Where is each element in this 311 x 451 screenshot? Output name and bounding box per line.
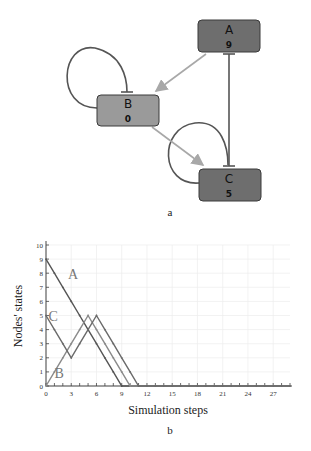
x-tick-label: 12 bbox=[143, 390, 151, 398]
y-tick-label: 1 bbox=[40, 368, 44, 376]
node-b-value: 0 bbox=[125, 114, 131, 124]
chart-annotations: ACB bbox=[49, 267, 79, 381]
series-line-b bbox=[46, 316, 290, 387]
node-a: A 9 bbox=[198, 20, 260, 52]
y-tick-label: 8 bbox=[40, 270, 44, 278]
series-line-c bbox=[46, 316, 290, 387]
y-tick-label: 0 bbox=[40, 383, 44, 391]
edge-a-b-activation bbox=[156, 54, 206, 91]
x-tick-label: 18 bbox=[194, 390, 202, 398]
y-axis-label: Nodes' states bbox=[11, 284, 25, 347]
chart-grid bbox=[46, 245, 290, 386]
y-tick-label: 9 bbox=[40, 256, 44, 264]
network-diagram: A 9 B 0 C 5 a bbox=[67, 20, 261, 218]
chart-axes: 0123456789100369121518212427 bbox=[36, 241, 292, 398]
series-annotation-b: B bbox=[54, 366, 63, 381]
y-tick-label: 2 bbox=[40, 354, 44, 362]
node-b-label: B bbox=[124, 97, 132, 111]
node-b: B 0 bbox=[97, 95, 159, 126]
x-tick-label: 0 bbox=[44, 390, 48, 398]
node-c-label: C bbox=[225, 172, 233, 186]
chart-series bbox=[45, 258, 291, 387]
edge-b-c-activation bbox=[152, 127, 203, 165]
figure: A 9 B 0 C 5 a 01234567891003691215182124… bbox=[0, 0, 311, 451]
x-axis-label: Simulation steps bbox=[128, 403, 208, 417]
y-tick-label: 6 bbox=[40, 298, 44, 306]
series-annotation-a: A bbox=[68, 267, 79, 282]
x-tick-label: 27 bbox=[270, 390, 278, 398]
node-a-value: 9 bbox=[226, 40, 232, 50]
y-tick-label: 7 bbox=[40, 284, 44, 292]
x-tick-label: 9 bbox=[120, 390, 124, 398]
x-tick-label: 3 bbox=[69, 390, 73, 398]
y-tick-label: 4 bbox=[40, 326, 44, 334]
y-tick-label: 5 bbox=[40, 312, 44, 320]
caption-b: b bbox=[167, 424, 173, 436]
x-tick-label: 21 bbox=[219, 390, 227, 398]
y-tick-label: 3 bbox=[40, 340, 44, 348]
node-c: C 5 bbox=[199, 169, 261, 201]
x-tick-label: 15 bbox=[169, 390, 177, 398]
node-a-label: A bbox=[225, 23, 234, 37]
series-annotation-c: C bbox=[49, 309, 58, 324]
series-line-a bbox=[46, 259, 290, 386]
x-tick-label: 24 bbox=[244, 390, 252, 398]
y-tick-label: 10 bbox=[36, 242, 44, 250]
line-chart: 0123456789100369121518212427 ACB Simulat… bbox=[11, 241, 292, 436]
x-tick-label: 6 bbox=[95, 390, 99, 398]
caption-a: a bbox=[168, 206, 173, 218]
node-c-value: 5 bbox=[226, 189, 232, 199]
